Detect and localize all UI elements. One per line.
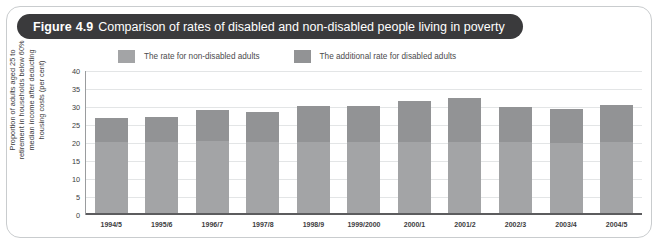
x-axis-tick-label: 2004/5 [600, 221, 633, 228]
x-axis-tick-label: 1994/5 [95, 221, 128, 228]
bar-group [145, 71, 178, 215]
x-axis-tick-label: 2000/1 [398, 221, 431, 228]
bar-segment-additional-disabled [297, 106, 330, 142]
x-axis-tick-label: 1997/8 [246, 221, 279, 228]
figure-label: Figure [33, 20, 72, 34]
x-axis-tick-label: 1995/6 [145, 221, 178, 228]
x-axis-tick-label: 2003/4 [550, 221, 583, 228]
bar-group [448, 71, 481, 215]
figure-container: Figure 4.9 Comparison of rates of disabl… [0, 0, 658, 244]
y-axis-title-line-2: retirement in households below 60% [17, 40, 27, 159]
bar-group [398, 71, 431, 215]
bar-group [550, 71, 583, 215]
bar-segment-additional-disabled [398, 101, 431, 142]
x-axis-tick-label: 1998/9 [297, 221, 330, 228]
bar-segment-non-disabled [145, 142, 178, 215]
bar-group [297, 71, 330, 215]
y-axis-title-line-3: median income after deducting [27, 40, 37, 159]
figure-title-banner: Figure 4.9 Comparison of rates of disabl… [17, 14, 523, 39]
bar-segment-additional-disabled [448, 98, 481, 142]
bar-segment-additional-disabled [550, 109, 583, 142]
bar-segment-additional-disabled [246, 112, 279, 142]
x-axis-tick-label: 2002/3 [499, 221, 532, 228]
bar-group [196, 71, 229, 215]
legend-item-additional-disabled: The additional rate for disabled adults [294, 50, 457, 63]
bar-segment-non-disabled [499, 142, 532, 215]
bar-group [499, 71, 532, 215]
bar-segment-additional-disabled [95, 118, 128, 141]
bar-group [246, 71, 279, 215]
y-axis-tick-5: 5 [62, 193, 80, 202]
bar-segment-additional-disabled [145, 117, 178, 141]
bar-group [600, 71, 633, 215]
y-axis-title-line-4: housing costs (per cent) [37, 40, 47, 159]
bar-segment-non-disabled [398, 142, 431, 215]
y-axis-tick-30: 30 [62, 103, 80, 112]
y-axis-tick-10: 10 [62, 175, 80, 184]
bar-group [347, 71, 380, 215]
x-axis-tick-label: 2001/2 [448, 221, 481, 228]
page-title: Comparison of rates of disabled and non-… [98, 20, 505, 34]
bar-segment-non-disabled [448, 142, 481, 215]
bar-group [95, 71, 128, 215]
legend-swatch-non-disabled [118, 50, 135, 63]
bar-segment-additional-disabled [499, 107, 532, 143]
bar-segment-non-disabled [196, 141, 229, 215]
bar-segment-non-disabled [95, 142, 128, 215]
x-axis-line [86, 213, 642, 215]
y-axis-tick-15: 15 [62, 157, 80, 166]
legend-label-non-disabled: The rate for non-disabled adults [144, 52, 260, 61]
chart-plot-area [86, 71, 642, 215]
y-axis-tick-20: 20 [62, 139, 80, 148]
legend-swatch-additional-disabled [294, 50, 311, 63]
bar-segment-additional-disabled [600, 105, 633, 142]
bar-segment-additional-disabled [196, 110, 229, 142]
x-axis-tick-label: 1996/7 [196, 221, 229, 228]
y-axis-title-line-1: Proportion of adults aged 25 to [8, 40, 18, 159]
chart-legend: The rate for non-disabled adults The add… [118, 50, 456, 63]
bar-segment-non-disabled [347, 142, 380, 215]
y-axis-tick-40: 40 [62, 67, 80, 76]
y-axis-tick-labels: 0510152025303540 [62, 71, 80, 215]
x-axis-tick-label: 1999/2000 [347, 221, 380, 228]
y-axis-tick-0: 0 [62, 211, 80, 220]
bar-segment-non-disabled [246, 142, 279, 215]
y-axis-title: Proportion of adults aged 25 to retireme… [1, 24, 53, 176]
figure-number: 4.9 [76, 20, 93, 34]
bar-segment-non-disabled [600, 142, 633, 215]
legend-item-non-disabled: The rate for non-disabled adults [118, 50, 260, 63]
bar-segment-non-disabled [550, 143, 583, 215]
bar-segment-additional-disabled [347, 106, 380, 142]
bar-series-container [86, 71, 642, 215]
x-axis-tick-labels: 1994/51995/61996/71997/81998/91999/20002… [86, 221, 642, 228]
bar-segment-non-disabled [297, 142, 330, 215]
legend-label-additional-disabled: The additional rate for disabled adults [320, 52, 457, 61]
y-axis-tick-25: 25 [62, 121, 80, 130]
y-axis-tick-35: 35 [62, 85, 80, 94]
